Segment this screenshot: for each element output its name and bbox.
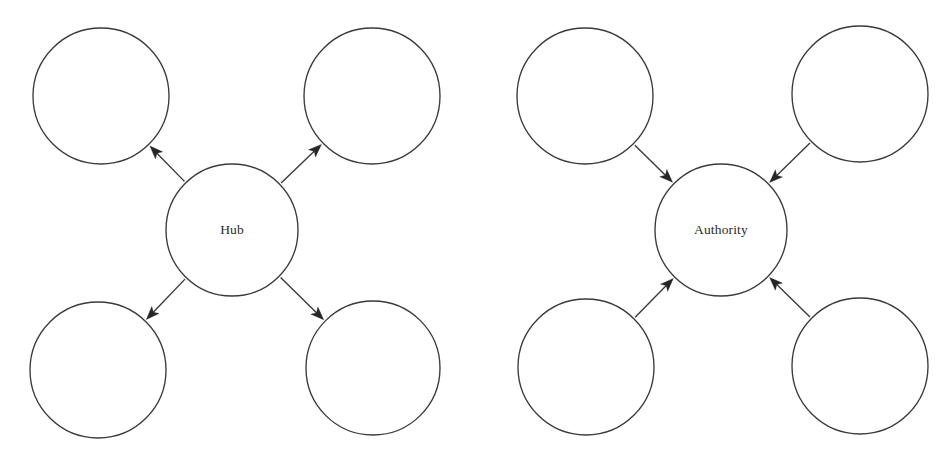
edge-line-hub-top-right bbox=[281, 149, 316, 183]
node-circle-authority-bottom-right[interactable] bbox=[792, 298, 928, 434]
edge-line-authority-bottom-right bbox=[775, 283, 810, 317]
edge-line-authority-top-right bbox=[775, 143, 810, 177]
hub-authority-diagram: HubAuthority bbox=[0, 0, 949, 455]
node-circle-hub-bottom-left[interactable] bbox=[30, 302, 166, 438]
node-circle-hub-bottom-right[interactable] bbox=[306, 301, 440, 435]
diagram-canvas: HubAuthority bbox=[0, 0, 949, 455]
edge-line-hub-top-left bbox=[155, 151, 185, 181]
edge-line-authority-top-left bbox=[635, 145, 668, 177]
diagram-group-hub: Hub bbox=[30, 28, 440, 438]
node-circle-authority-top-right[interactable] bbox=[792, 26, 928, 162]
diagram-group-authority: Authority bbox=[517, 26, 928, 435]
node-circle-authority-top-left[interactable] bbox=[517, 28, 653, 164]
edge-line-hub-bottom-right bbox=[281, 278, 319, 315]
node-circle-authority-bottom-left[interactable] bbox=[518, 299, 654, 435]
edge-line-hub-bottom-left bbox=[151, 279, 185, 314]
center-node-label-authority: Authority bbox=[694, 222, 748, 237]
diagram-layer: HubAuthority bbox=[30, 26, 928, 438]
center-node-label-hub: Hub bbox=[220, 222, 244, 237]
node-circle-hub-top-left[interactable] bbox=[33, 28, 169, 164]
edge-line-authority-bottom-left bbox=[635, 284, 668, 318]
node-circle-hub-top-right[interactable] bbox=[304, 28, 440, 164]
